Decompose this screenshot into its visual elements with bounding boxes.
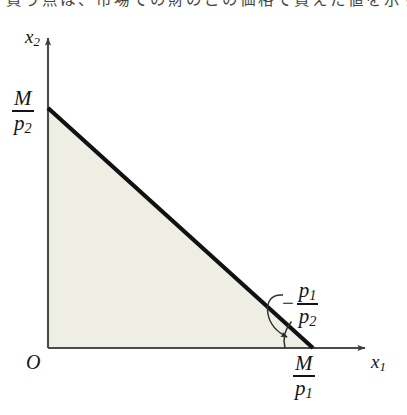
y-axis-label-subscript: 2 (33, 34, 39, 49)
fraction-m-over-p2: M p2 (12, 88, 34, 135)
plot-canvas (0, 0, 407, 415)
fraction-denominator: p1 (293, 377, 315, 400)
fraction-numerator: M (12, 88, 34, 110)
denominator-subscript: 1 (306, 385, 313, 401)
fraction-numerator: M (293, 353, 315, 375)
fraction-m-over-p1: M p1 (293, 353, 315, 400)
denominator-base: p (295, 376, 306, 400)
x-axis-label: x1 (371, 352, 386, 374)
budget-set-figure: 買う点は、市場での財のこの価格で買えた値を示す M p2 (0, 0, 407, 415)
numerator-base: p (299, 278, 310, 302)
x-intercept-label: M p1 (293, 353, 315, 400)
slope-label: − p1 p2 (282, 280, 318, 328)
fraction-numerator: p1 (297, 280, 319, 303)
fraction-denominator: p2 (12, 112, 34, 135)
y-intercept-label: M p2 (12, 88, 34, 135)
y-axis-label: x2 (25, 27, 40, 49)
fraction-p1-over-p2: p1 p2 (297, 280, 319, 328)
fraction-denominator: p2 (297, 305, 319, 328)
denominator-subscript: 2 (309, 313, 316, 329)
origin-label: O (26, 352, 40, 372)
minus-sign: − (282, 293, 297, 314)
denominator-base: p (14, 111, 25, 135)
x-axis-label-subscript: 1 (379, 359, 385, 374)
denominator-base: p (299, 304, 310, 328)
numerator-subscript: 1 (309, 287, 316, 303)
denominator-subscript: 2 (25, 120, 32, 136)
